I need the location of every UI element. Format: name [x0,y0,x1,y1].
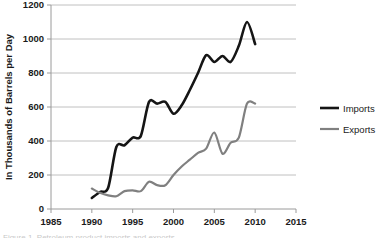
x-tick-label: 2010 [245,216,266,227]
y-tick-label: 400 [28,135,44,146]
legend-label-imports: Imports [343,103,375,114]
y-axis-title: In Thousands of Barrels per Day [3,33,14,180]
chart-background [0,0,378,238]
x-tick-label: 1985 [40,216,62,227]
x-tick-label: 1990 [81,216,102,227]
x-tick-label: 2005 [204,216,226,227]
x-tick-label: 2000 [163,216,184,227]
y-tick-label: 1200 [23,0,44,10]
x-tick-label: 2015 [285,216,307,227]
x-tick-label: 1995 [122,216,144,227]
y-tick-label: 200 [28,169,44,180]
line-chart: 020040060080010001200 198519901995200020… [0,0,378,238]
y-tick-label: 1000 [23,33,44,44]
legend-label-exports: Exports [343,124,375,135]
y-tick-label: 0 [39,203,44,214]
y-tick-label: 800 [28,67,44,78]
y-tick-label: 600 [28,101,44,112]
bottom-caption-fragment: Figure 1. Petroleum product imports and … [3,234,183,238]
